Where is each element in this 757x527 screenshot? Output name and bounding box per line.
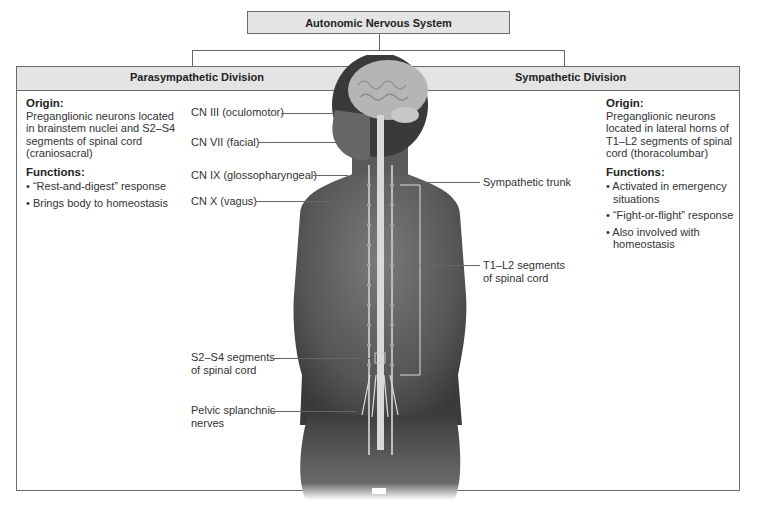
parasympathetic-origin-line: (craniosacral) [26, 147, 196, 160]
parasympathetic-function-item: • Brings body to homeostasis [26, 197, 196, 210]
sympathetic-functions-heading: Functions: [606, 166, 736, 179]
sympathetic-info: Origin: Preganglionic neurons located in… [606, 97, 736, 251]
label-t1l2-line2: of spinal cord [483, 272, 548, 285]
parasympathetic-origin-line: Preganglionic neurons located [26, 110, 196, 123]
sympathetic-origin-line: Preganglionic neurons [606, 110, 736, 123]
connector-right-drop [564, 50, 565, 66]
leader-cn9 [313, 175, 348, 176]
parasympathetic-function-item: • “Rest-and-digest” response [26, 180, 196, 193]
parasympathetic-origin-line: segments of spinal cord [26, 135, 196, 148]
sympathetic-origin-line: cord (thoracolumbar) [606, 147, 736, 160]
label-cn3: CN III (oculomotor) [191, 106, 284, 119]
title-box: Autonomic Nervous System [247, 11, 510, 34]
parasympathetic-info: Origin: Preganglionic neurons located in… [26, 97, 196, 209]
parasympathetic-title: Parasympathetic Division [130, 71, 264, 83]
label-t1l2-line1: T1–L2 segments [483, 259, 565, 272]
panel-gap [372, 488, 386, 494]
leader-t1l2 [420, 265, 480, 266]
label-sympathetic-trunk: Sympathetic trunk [483, 176, 571, 189]
sympathetic-title: Sympathetic Division [515, 71, 626, 83]
leader-cn7 [258, 142, 358, 143]
leader-sympathetic-trunk [408, 182, 480, 183]
parasympathetic-origin-line: in brainstem nuclei and S2–S4 [26, 122, 196, 135]
sympathetic-function-item: • “Fight-or-flight” response [606, 209, 736, 222]
sympathetic-origin-heading: Origin: [606, 97, 736, 110]
sympathetic-origin-line: located in lateral horns of [606, 122, 736, 135]
connector-horizontal [192, 50, 565, 51]
label-s2s4-line1: S2–S4 segments [191, 351, 275, 364]
sympathetic-origin-line: T1–L2 segments of spinal [606, 135, 736, 148]
label-s2s4-line2: of spinal cord [191, 364, 256, 377]
label-cn10: CN X (vagus) [191, 195, 257, 208]
connector-vertical-top [379, 34, 380, 50]
label-cn7: CN VII (facial) [191, 136, 259, 149]
label-pelvic-line1: Pelvic splanchnic [191, 404, 275, 417]
label-pelvic-line2: nerves [191, 417, 224, 430]
sympathetic-function-item: • Activated in emergency situations [606, 180, 736, 205]
connector-left-drop [192, 50, 193, 66]
leader-cn3 [281, 113, 351, 114]
parasympathetic-origin-heading: Origin: [26, 97, 196, 110]
sympathetic-function-item: • Also involved with homeostasis [606, 226, 736, 251]
parasympathetic-functions-heading: Functions: [26, 166, 196, 179]
leader-pelvic [271, 411, 356, 412]
leader-s2s4 [271, 358, 371, 359]
leader-cn10 [256, 201, 356, 202]
label-cn9: CN IX (glossopharyngeal) [191, 169, 317, 182]
